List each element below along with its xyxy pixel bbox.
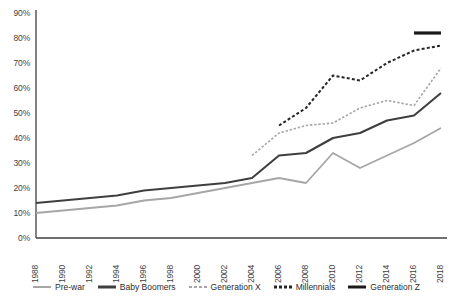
chart-container: 0%10%20%30%40%50%60%70%80%90% 1988199019… [0,0,453,297]
legend-swatch-icon [98,283,116,291]
series-line-baby-boomers [36,93,441,203]
legend-item[interactable]: Generation X [189,282,261,292]
legend-swatch-icon [348,283,366,291]
legend-swatch-icon [33,283,51,291]
legend-swatch-icon [274,283,292,291]
chart-legend: Pre-warBaby BoomersGeneration XMillennia… [0,277,453,297]
legend-item-label: Pre-war [55,282,85,292]
legend-item[interactable]: Pre-war [33,282,85,292]
legend-swatch-icon [189,283,207,291]
legend-item[interactable]: Generation Z [348,282,420,292]
legend-item-label: Millennials [296,282,336,292]
series-line-generation-x [252,68,441,156]
legend-item-label: Generation Z [370,282,420,292]
legend-item-label: Generation X [211,282,261,292]
series-line-pre-war [36,128,441,213]
legend-item[interactable]: Millennials [274,282,336,292]
legend-item-label: Baby Boomers [120,282,176,292]
legend-item[interactable]: Baby Boomers [98,282,176,292]
